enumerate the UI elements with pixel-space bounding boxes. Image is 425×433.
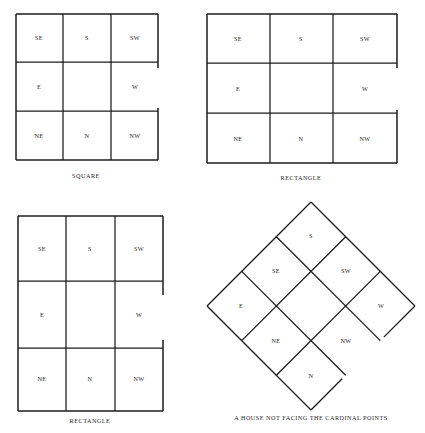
cell-label-se: SE — [234, 36, 242, 42]
cell-label-w: W — [378, 303, 384, 309]
cell-label-n: N — [85, 133, 90, 139]
figure-sheet: SE S SW E W NE N NW SQUARE — [0, 0, 425, 433]
cell-label-s: S — [88, 246, 92, 252]
cell-label-nw: NW — [129, 133, 140, 139]
cell-label-sw: SW — [360, 36, 370, 42]
cell-label-s: S — [299, 36, 303, 42]
wall-right-upper — [384, 306, 415, 337]
figure-rectangle-tall: SE S SW E W NE N NW RECTANGLE — [12, 212, 168, 412]
wall-right-lower — [311, 379, 342, 410]
cell-label-s: S — [85, 35, 89, 41]
cell-label-ne: NE — [234, 136, 243, 142]
partition-vertical-1 — [242, 237, 346, 341]
cell-label-se: SE — [35, 35, 43, 41]
cell-label-se: SE — [38, 246, 46, 252]
cell-label-e: E — [37, 84, 41, 90]
wall-top — [311, 202, 415, 306]
rectangle-wide-plan: SE S SW E W NE N NW — [201, 10, 401, 165]
cell-label-w: W — [132, 84, 138, 90]
partition-horizontal-1 — [276, 237, 380, 341]
wall-bottom — [207, 306, 311, 410]
cell-label-nw: NW — [359, 136, 370, 142]
cell-label-nw: NW — [340, 338, 351, 344]
cell-label-e: E — [236, 86, 240, 92]
cell-label-w: W — [136, 312, 142, 318]
partition-horizontal-2 — [242, 271, 346, 375]
cell-label-e: E — [239, 303, 243, 309]
cell-label-se: SE — [272, 268, 280, 274]
cell-label-nw: NW — [133, 376, 144, 382]
cell-label-n: N — [299, 136, 304, 142]
caption-rectangle-wide: RECTANGLE — [201, 175, 401, 181]
cell-label-e: E — [40, 312, 44, 318]
cell-label-ne: NE — [38, 376, 47, 382]
caption-square: SQUARE — [10, 173, 162, 179]
caption-rectangle-tall: RECTANGLE — [12, 418, 168, 424]
cell-label-sw: SW — [341, 268, 351, 274]
caption-diamond: A HOUSE NOT FACING THE CARDINAL POINTS — [201, 415, 421, 421]
cell-label-ne: NE — [35, 133, 44, 139]
cell-label-n: N — [88, 376, 93, 382]
figure-rectangle-wide: SE S SW E W NE N NW RECTANGLE — [201, 10, 401, 165]
figure-square: SE S SW E W NE N NW SQUARE — [10, 10, 162, 162]
diamond-plan: S SE SW E W NE N NW — [201, 198, 421, 414]
cell-label-n: N — [309, 373, 314, 379]
cell-label-w: W — [362, 86, 368, 92]
figure-diamond: S SE SW E W NE N NW A HOUSE NOT FACING T… — [201, 198, 421, 414]
rectangle-tall-plan: SE S SW E W NE N NW — [12, 212, 168, 412]
partition-vertical-2 — [276, 271, 380, 375]
square-plan: SE S SW E W NE N NW — [10, 10, 162, 162]
wall-left — [207, 202, 311, 306]
cell-label-ne: NE — [272, 338, 281, 344]
cell-label-sw: SW — [130, 35, 140, 41]
cell-label-s: S — [309, 233, 313, 239]
cell-label-sw: SW — [134, 246, 144, 252]
